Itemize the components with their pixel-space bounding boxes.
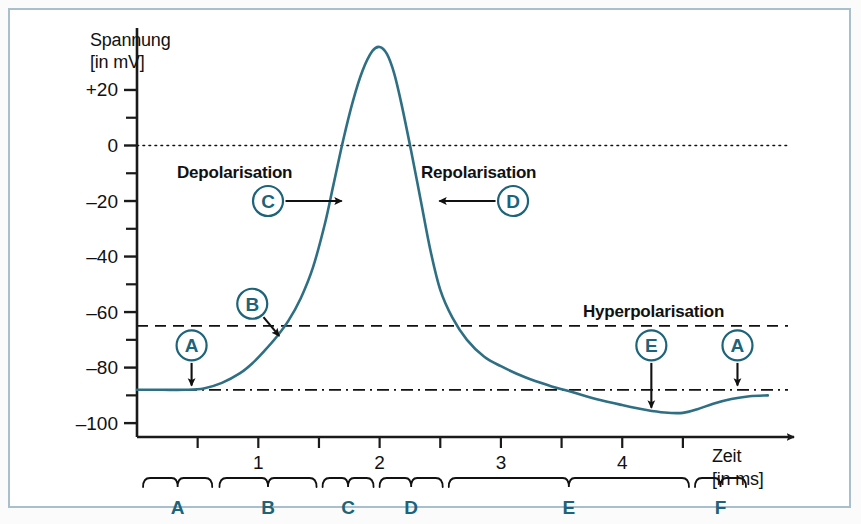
x-tick-label: 2 (374, 452, 385, 473)
annotation-marker-letter-e: E (645, 335, 658, 356)
annotation-marker-letter-a: A (185, 335, 199, 356)
phase-bracket (323, 478, 374, 487)
y-tick-label: –100 (76, 413, 118, 434)
phase-bracket (219, 478, 316, 487)
y-tick-label: –60 (86, 302, 118, 323)
annotation-marker-letter-d: D (506, 191, 520, 212)
phase-label: C (341, 497, 355, 518)
y-tick-label: +20 (86, 79, 118, 100)
phase-label: A (171, 497, 185, 518)
phase-bracket (449, 478, 689, 487)
action-potential-curve (137, 47, 768, 413)
annotation-marker-letter-c: C (261, 191, 275, 212)
phase-label: F (715, 497, 727, 518)
phase-label: D (404, 497, 418, 518)
y-axis-title-line2: [in mV] (90, 52, 145, 73)
x-tick-label: 1 (253, 452, 264, 473)
y-tick-label: –40 (86, 246, 118, 267)
x-axis-title-line1: Zeit (712, 446, 741, 467)
x-axis-title-line2: [in ms] (712, 469, 764, 490)
x-tick-label: 4 (617, 452, 628, 473)
annotation-label-repolarisation: Repolarisation (421, 163, 536, 183)
y-tick-label: 0 (107, 135, 118, 156)
annotation-marker-letter-a: A (731, 335, 745, 356)
phase-label: E (563, 497, 576, 518)
annotation-label-depolarisation: Depolarisation (177, 163, 292, 183)
figure-background: +200–20–40–60–80–1001234ABCDEAABCDEF Spa… (0, 0, 861, 524)
phase-label: B (261, 497, 275, 518)
x-tick-label: 3 (496, 452, 507, 473)
phase-bracket (380, 478, 443, 487)
y-tick-label: –80 (86, 357, 118, 378)
y-axis-title-line1: Spannung (90, 30, 170, 51)
phase-bracket (143, 478, 212, 487)
annotation-marker-letter-b: B (245, 294, 259, 315)
y-tick-label: –20 (86, 191, 118, 212)
annotation-label-hyperpolarisation: Hyperpolarisation (583, 302, 724, 322)
